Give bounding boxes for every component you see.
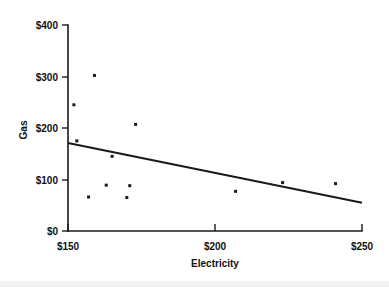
y-tick-label-100: $100 — [36, 175, 59, 186]
x-axis-title: Electricity — [191, 258, 239, 269]
y-tick-label-300: $300 — [36, 72, 59, 83]
page-edge-band — [0, 281, 389, 287]
chart-canvas: $400 $300 $200 $100 $0 $150 $200 $250 El… — [0, 0, 389, 287]
data-point — [128, 184, 131, 187]
data-point — [105, 184, 108, 187]
data-point — [334, 182, 337, 185]
data-point — [134, 123, 137, 126]
data-point — [111, 155, 114, 158]
x-tick-label-200: $200 — [204, 241, 227, 252]
y-tick-label-400: $400 — [36, 20, 59, 31]
data-point — [234, 190, 237, 193]
scatter-chart-figure: $400 $300 $200 $100 $0 $150 $200 $250 El… — [0, 0, 389, 287]
data-point — [72, 103, 75, 106]
data-point — [75, 139, 78, 142]
y-axis-title: Gas — [18, 120, 29, 139]
x-tick-label-150: $150 — [57, 241, 80, 252]
y-tick-label-200: $200 — [36, 123, 59, 134]
data-point — [281, 181, 284, 184]
x-tick-label-250: $250 — [351, 241, 374, 252]
y-tick-label-0: $0 — [47, 226, 59, 237]
data-point — [125, 196, 128, 199]
data-point — [93, 74, 96, 77]
data-point — [87, 196, 90, 199]
